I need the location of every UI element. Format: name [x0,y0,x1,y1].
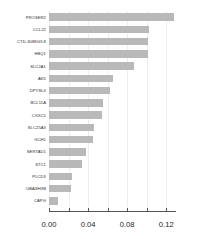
y-axis-tick-label: BCL11A [0,100,46,105]
x-axis-tick [69,208,70,212]
y-axis-tick-label: GCH1 [0,137,46,142]
bar [49,50,148,58]
y-axis-tick-label: HBQ1 [0,51,46,56]
y-axis-tick-label: CTD-3088G3.8 [0,39,46,44]
bar [49,160,82,168]
y-axis-tick-label: STC1 [0,162,46,167]
bar-row [49,185,176,193]
bar [49,148,86,156]
bar-row [49,75,176,83]
x-axis-tick [166,208,167,212]
y-axis-tick-label: SERTAD1 [0,149,46,154]
y-axis-tick-label: AK5 [0,76,46,81]
y-axis-tick-label: SLC25A3 [0,125,46,130]
bar [49,136,93,144]
bar [49,62,134,70]
bar-row [49,197,176,205]
x-axis-tick-label: 0.04 [81,220,96,229]
x-axis-tick [147,208,148,212]
bar-row [49,62,176,70]
bar-row [49,111,176,119]
x-axis-tick-label: 0.08 [120,220,135,229]
bar [49,13,174,21]
bar [49,87,110,95]
bar-row [49,124,176,132]
x-axis-tick [108,208,109,212]
bar [49,99,103,107]
bar [49,75,113,83]
bar-chart: PROSER2CCL22CTD-3088G3.8HBQ1SLC2A1AK5DPY… [0,0,199,239]
bar [49,185,71,193]
y-axis-tick-label: UBASH3B [0,186,46,191]
bar [49,38,148,46]
bar-row [49,26,176,34]
x-axis-tick [127,208,128,212]
y-axis-tick-label: PLCD3 [0,174,46,179]
y-axis-tick-label: CXXC5 [0,113,46,118]
bar-row [49,173,176,181]
bar-row [49,13,176,21]
bar-series [49,11,176,207]
plot-area [49,11,176,207]
y-axis-labels: PROSER2CCL22CTD-3088G3.8HBQ1SLC2A1AK5DPY… [0,11,46,207]
y-axis-tick-label: PROSER2 [0,15,46,20]
bar-row [49,136,176,144]
bar [49,173,72,181]
x-axis-tick [49,208,50,212]
x-axis [49,211,176,217]
bar [49,197,58,205]
x-axis-tick-label: 0.00 [42,220,57,229]
x-axis-tick [88,208,89,212]
bar-row [49,148,176,156]
bar [49,124,94,132]
bar [49,26,149,34]
bar-row [49,99,176,107]
bar-row [49,38,176,46]
y-axis-tick-label: CCL22 [0,27,46,32]
y-axis-tick-label: CAPG [0,198,46,203]
bar [49,111,102,119]
x-axis-tick-label: 0.12 [159,220,174,229]
y-axis-tick-label: SLC2A1 [0,64,46,69]
x-axis-tick-labels: 0.000.040.080.12 [49,220,176,232]
bar-row [49,50,176,58]
bar-row [49,160,176,168]
y-axis-tick-label: DPYSL4 [0,88,46,93]
bar-row [49,87,176,95]
